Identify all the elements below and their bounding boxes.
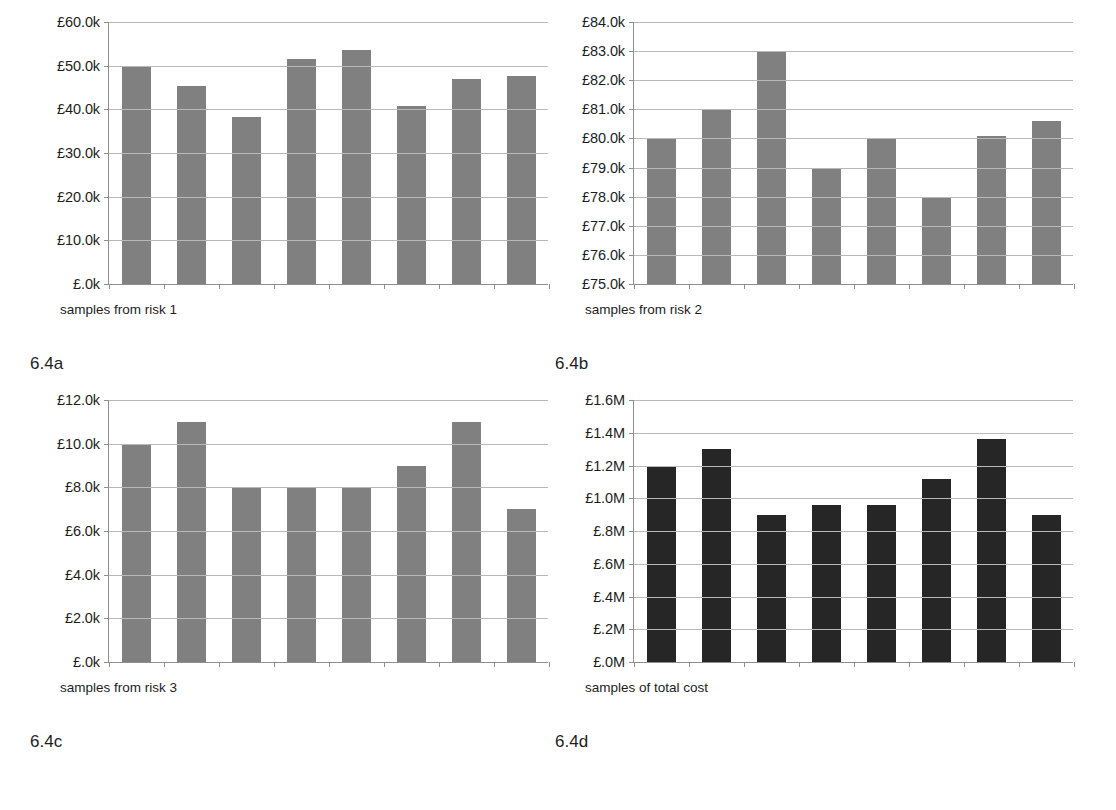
bar <box>397 466 427 663</box>
x-tick-mark <box>909 662 910 667</box>
y-tick-mark <box>629 197 634 198</box>
y-tick-mark <box>104 487 109 488</box>
y-axis-a: £.0k£10.0k£20.0k£30.0k£40.0k£50.0k£60.0k <box>30 22 106 284</box>
y-tick-mark <box>104 109 109 110</box>
y-tick-label: £.4M <box>593 589 625 605</box>
y-tick-mark <box>629 531 634 532</box>
y-tick-mark <box>629 255 634 256</box>
x-tick-mark <box>274 284 275 289</box>
plot-area-a <box>108 22 548 284</box>
gridline <box>634 564 1073 565</box>
y-tick-label: £.0k <box>73 654 100 670</box>
figure-label-c: 6.4c <box>30 732 62 752</box>
x-tick-mark <box>689 662 690 667</box>
figure-label-d: 6.4d <box>555 732 588 752</box>
y-tick-label: £60.0k <box>57 14 100 30</box>
gridline <box>109 197 548 198</box>
x-tick-mark <box>109 284 110 289</box>
bar <box>647 138 677 284</box>
gridline <box>634 109 1073 110</box>
x-tick-mark <box>109 662 110 667</box>
bar-series-b <box>634 22 1073 284</box>
y-tick-mark <box>629 597 634 598</box>
bar <box>507 76 537 284</box>
y-tick-mark <box>629 629 634 630</box>
x-tick-mark <box>854 662 855 667</box>
y-tick-label: £1.0M <box>585 490 625 506</box>
gridline <box>109 153 548 154</box>
y-tick-mark <box>104 240 109 241</box>
x-tick-mark <box>1074 284 1075 289</box>
y-tick-mark <box>629 109 634 110</box>
y-tick-mark <box>104 66 109 67</box>
x-tick-mark <box>689 284 690 289</box>
x-tick-mark <box>164 284 165 289</box>
gridline <box>109 109 548 110</box>
y-tick-mark <box>629 51 634 52</box>
y-tick-label: £.6M <box>593 556 625 572</box>
y-tick-label: £76.0k <box>582 247 625 263</box>
y-tick-mark <box>104 400 109 401</box>
y-tick-label: £1.2M <box>585 458 625 474</box>
y-tick-label: £.0k <box>73 276 100 292</box>
gridline <box>634 400 1073 401</box>
y-tick-label: £50.0k <box>57 58 100 74</box>
bar <box>922 479 952 662</box>
plot-area-b <box>633 22 1073 284</box>
y-tick-mark <box>629 400 634 401</box>
y-tick-label: £40.0k <box>57 101 100 117</box>
x-tick-mark <box>384 662 385 667</box>
x-tick-mark <box>1019 662 1020 667</box>
x-tick-mark <box>744 662 745 667</box>
y-tick-label: £1.4M <box>585 425 625 441</box>
y-axis-b: £75.0k£76.0k£77.0k£78.0k£79.0k£80.0k£81.… <box>555 22 631 284</box>
x-tick-mark <box>439 284 440 289</box>
bar-chart-b: £75.0k£76.0k£77.0k£78.0k£79.0k£80.0k£81.… <box>555 22 1083 322</box>
x-tick-mark <box>274 662 275 667</box>
gridline <box>634 597 1073 598</box>
bar <box>867 138 897 284</box>
gridline <box>634 466 1073 467</box>
gridline <box>634 629 1073 630</box>
figure-label-a: 6.4a <box>30 354 63 374</box>
bar <box>867 505 897 662</box>
gridline <box>109 240 548 241</box>
y-tick-label: £4.0k <box>65 567 100 583</box>
y-tick-label: £.0M <box>593 654 625 670</box>
x-axis-caption-b: samples from risk 2 <box>585 302 702 317</box>
y-tick-label: £82.0k <box>582 72 625 88</box>
gridline <box>634 226 1073 227</box>
y-tick-mark <box>629 22 634 23</box>
bar <box>977 136 1007 284</box>
y-tick-label: £77.0k <box>582 218 625 234</box>
x-tick-mark <box>439 662 440 667</box>
x-tick-mark <box>164 662 165 667</box>
y-tick-label: £79.0k <box>582 160 625 176</box>
y-tick-mark <box>629 80 634 81</box>
y-tick-label: £12.0k <box>57 392 100 408</box>
figure-label-b: 6.4b <box>555 354 588 374</box>
y-tick-label: £83.0k <box>582 43 625 59</box>
bar <box>922 197 952 284</box>
chart-panel-d: £.0M£.2M£.4M£.6M£.8M£1.0M£1.2M£1.4M£1.6M… <box>555 400 1083 775</box>
y-tick-label: £78.0k <box>582 189 625 205</box>
gridline <box>634 168 1073 169</box>
gridline <box>109 66 548 67</box>
y-tick-label: £1.6M <box>585 392 625 408</box>
bar <box>122 66 152 284</box>
y-tick-mark <box>104 531 109 532</box>
chart-panel-b: £75.0k£76.0k£77.0k£78.0k£79.0k£80.0k£81.… <box>555 22 1083 397</box>
bar <box>757 515 787 662</box>
gridline <box>634 531 1073 532</box>
y-tick-mark <box>104 444 109 445</box>
gridline <box>109 487 548 488</box>
x-tick-mark <box>964 284 965 289</box>
bar <box>1032 515 1062 662</box>
bar <box>342 50 372 284</box>
gridline <box>634 22 1073 23</box>
x-tick-mark <box>494 662 495 667</box>
y-tick-label: £84.0k <box>582 14 625 30</box>
x-tick-mark <box>219 284 220 289</box>
bar-chart-d: £.0M£.2M£.4M£.6M£.8M£1.0M£1.2M£1.4M£1.6M <box>555 400 1083 700</box>
x-tick-mark <box>799 662 800 667</box>
